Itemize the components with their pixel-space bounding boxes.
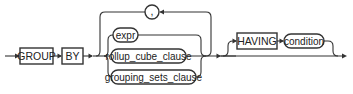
term-grouping-sets-clause-label: grouping_sets_clause <box>105 72 203 83</box>
term-rollup-cube-clause: rollup_cube_clause <box>105 49 236 63</box>
optional-having-return <box>324 41 338 56</box>
keyword-by-label: BY <box>65 50 79 62</box>
term-condition-label: condition <box>284 36 324 47</box>
keyword-having: HAVING <box>237 33 277 49</box>
comma-separator: , <box>145 5 159 19</box>
term-expr-label: expr <box>116 30 136 41</box>
group-by-syntax-diagram: GROUP BY , expr rol <box>0 0 353 94</box>
term-rollup-cube-clause-label: rollup_cube_clause <box>105 51 192 62</box>
keyword-having-label: HAVING <box>237 35 276 47</box>
optional-having-branch <box>223 39 237 57</box>
term-condition: condition <box>284 34 324 48</box>
main-line-to-end <box>217 54 348 59</box>
keyword-group: GROUP <box>17 48 56 64</box>
term-expr: expr <box>113 28 196 42</box>
connector-having-condition <box>277 39 284 44</box>
comma-separator-label: , <box>151 5 154 17</box>
keyword-by: BY <box>62 48 83 64</box>
term-grouping-sets-clause: grouping_sets_clause <box>105 70 203 84</box>
keyword-group-label: GROUP <box>17 50 56 62</box>
